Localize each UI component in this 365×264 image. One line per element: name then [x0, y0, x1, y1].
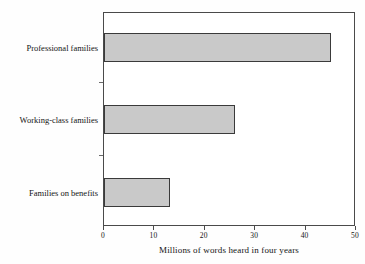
category-label-professional-families: Professional families	[0, 43, 98, 53]
x-axis-tick-label: 30	[250, 231, 258, 240]
bar-families-on-benefits	[104, 178, 170, 207]
x-axis-tick-label: 50	[351, 231, 359, 240]
x-axis-tick-mark	[254, 226, 255, 230]
x-axis-tick-mark	[153, 226, 154, 230]
x-axis-title: Millions of words heard in four years	[103, 245, 355, 255]
x-axis-tick-label: 20	[200, 231, 208, 240]
category-label-families-on-benefits: Families on benefits	[0, 188, 98, 198]
plot-area	[103, 12, 355, 226]
x-axis-tick-mark	[305, 226, 306, 230]
x-axis-tick-label: 0	[101, 231, 105, 240]
bar-working-class-families	[104, 105, 235, 134]
x-axis-tick-label: 40	[301, 231, 309, 240]
x-axis-tick-mark	[204, 226, 205, 230]
x-axis-tick-mark	[355, 226, 356, 230]
x-axis-tick-label: 10	[149, 231, 157, 240]
category-label-working-class-families: Working-class families	[0, 115, 98, 125]
bar-chart: Professional families Working-class fami…	[0, 0, 365, 264]
x-axis-tick-mark	[103, 226, 104, 230]
bar-professional-families	[104, 33, 331, 62]
